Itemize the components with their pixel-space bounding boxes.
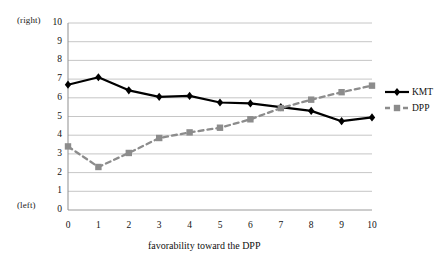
data-point-marker [338,117,344,125]
y-axis-top-note: (right) [17,15,41,25]
legend-item-dpp-mark [385,105,409,111]
data-point-marker [156,93,162,101]
x-axis-tick-label: 1 [86,221,110,231]
data-series-layer [65,73,375,170]
data-point-marker [247,116,253,122]
y-axis-tick-label: 9 [42,37,62,47]
x-axis-tick-label: 5 [208,221,232,231]
data-point-marker [126,150,132,156]
data-point-marker [308,107,314,115]
data-point-marker [95,164,101,170]
data-point-marker [338,89,344,95]
data-point-marker [369,82,375,88]
y-axis-tick-label: 3 [42,149,62,159]
y-axis-tick-label: 0 [42,205,62,215]
x-axis-tick-label: 10 [360,221,384,231]
y-axis-tick-label: 5 [42,112,62,122]
data-point-marker [394,88,400,96]
y-axis-tick-label: 10 [42,18,62,28]
legend-item-kmt-mark [385,88,409,96]
y-axis-tick-label: 1 [42,186,62,196]
data-point-marker [217,125,223,131]
x-axis-tick-label: 9 [330,221,354,231]
x-axis-tick-label: 8 [299,221,323,231]
data-point-marker [217,98,223,106]
data-point-marker [65,81,71,89]
x-axis-tick-label: 4 [178,221,202,231]
data-point-marker [308,96,314,102]
chart-figure: (right) (left) 012345678910 012345678910… [0,0,445,272]
legend-marks [385,88,409,111]
x-axis-tick-label: 6 [238,221,262,231]
x-axis-tick-label: 7 [269,221,293,231]
x-axis-tick-label: 3 [147,221,171,231]
data-point-marker [186,129,192,135]
plot-area [0,0,445,272]
y-axis-tick-label: 6 [42,93,62,103]
series-dpp [65,82,375,170]
data-point-marker [278,105,284,111]
y-axis-tick-label: 7 [42,74,62,84]
y-axis-tick-label: 8 [42,55,62,65]
x-axis-tick-label: 0 [56,221,80,231]
y-axis-bottom-note: (left) [17,200,36,210]
data-point-marker [156,135,162,141]
data-point-marker [95,73,101,81]
data-point-marker [369,113,375,121]
data-point-marker [394,105,400,111]
series-kmt [65,73,375,125]
y-axis-tick-label: 2 [42,168,62,178]
x-axis-tick-label: 2 [117,221,141,231]
legend-item-kmt-label: KMT [412,87,433,97]
legend-item-dpp-label: DPP [412,103,429,113]
data-point-marker [247,99,253,107]
data-point-marker [186,92,192,100]
x-axis-label: favorability toward the DPP [148,240,260,251]
data-point-marker [126,86,132,94]
data-point-marker [65,143,71,149]
y-axis-tick-label: 4 [42,130,62,140]
